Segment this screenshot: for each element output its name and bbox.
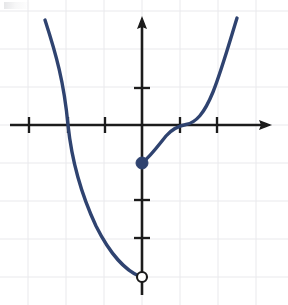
axes [10,16,272,295]
filled-point-marker [136,157,148,169]
graph-figure [0,0,288,305]
open-point-marker [137,272,147,282]
curve-left-branch [45,20,140,277]
coordinate-plane [0,0,288,305]
grid-lines [0,0,288,305]
curve-right-branch [142,18,237,163]
